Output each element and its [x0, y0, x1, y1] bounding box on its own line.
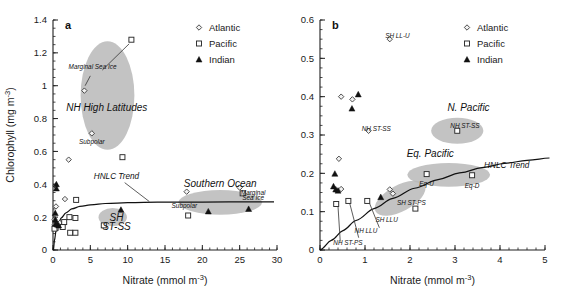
annotation-label: N. Pacific [447, 102, 489, 113]
marker-atlantic [336, 156, 341, 161]
x-tick-label: 5 [88, 254, 93, 265]
marker-atlantic [184, 189, 189, 194]
panel-letter: a [65, 19, 72, 31]
annotation-label: Eq. Pacific [407, 148, 454, 159]
marker-atlantic [66, 157, 71, 162]
marker-atlantic [62, 196, 67, 201]
legend-panel-b: AtlanticPacificIndian [464, 22, 508, 65]
marker-atlantic [464, 25, 469, 30]
marker-pacific [73, 215, 78, 220]
y-tick-label: 0.4 [34, 179, 47, 190]
marker-pacific [129, 37, 134, 42]
annotation-label: Eq-D [465, 182, 480, 190]
annotation-label: NH ST-SS [362, 125, 392, 132]
annotation-label: SH LL-U [385, 32, 410, 39]
x-tick-label: 2 [407, 254, 412, 265]
legend-label-atlantic: Atlantic [477, 22, 508, 33]
y-tick-label: 0.4 [301, 91, 314, 102]
legend-label-atlantic: Atlantic [209, 22, 240, 33]
x-tick-label: 0 [50, 254, 55, 265]
series-atlantic [336, 36, 395, 196]
marker-pacific [365, 198, 370, 203]
y-tick-label: 0.5 [301, 53, 314, 64]
x-axis-title: Nitrate (mmol m-3) [390, 273, 475, 287]
x-tick-label: 3 [452, 254, 457, 265]
marker-indian [196, 57, 202, 63]
marker-pacific [334, 202, 339, 207]
annotation-label: SH LLU [375, 216, 398, 223]
axes-panel-a: 05101520253000.20.40.60.811.21.4 [34, 14, 283, 265]
marker-pacific [197, 41, 202, 46]
leader-hnlc-trend [125, 183, 150, 202]
annotation-label: HNLC Trend [94, 172, 140, 181]
annotation-label: NH High Latitudes [66, 102, 147, 113]
marker-pacific [120, 155, 125, 160]
marker-atlantic [338, 94, 343, 99]
annotation-label: Sea Ice [242, 194, 264, 201]
marker-pacific [74, 197, 79, 202]
marker-pacific [424, 172, 429, 177]
annotation-label: SH ST-PS [397, 199, 427, 206]
annotation-label: NH ST-SS [450, 122, 480, 129]
legend-label-pacific: Pacific [209, 38, 237, 49]
y-tick-label: 1.4 [34, 14, 47, 25]
marker-pacific [465, 41, 470, 46]
leader-nh-st-ps [338, 206, 340, 241]
panel-b: 01234500.10.20.30.40.50.6bNitrate (mmol … [301, 14, 550, 286]
x-axis-title: Nitrate (mmol m-3) [123, 273, 208, 287]
y-axis-title: Chlorophyll (mg m-3) [3, 87, 17, 182]
marker-atlantic [196, 25, 201, 30]
y-tick-label: 0.6 [301, 14, 314, 25]
marker-pacific [67, 215, 72, 220]
axes-panel-b: 01234500.10.20.30.40.50.6 [301, 14, 548, 265]
x-tick-label: 5 [542, 254, 547, 265]
y-tick-label: 0.2 [301, 168, 314, 179]
legend-label-indian: Indian [209, 54, 235, 65]
annotation-label: Eq-U [419, 180, 434, 188]
chart-canvas: 05101520253000.20.40.60.811.21.4aNitrate… [0, 0, 565, 301]
y-tick-label: 0.6 [34, 146, 47, 157]
marker-atlantic [350, 97, 355, 102]
marker-indian [464, 57, 470, 63]
series-indian [331, 91, 384, 199]
marker-atlantic [53, 204, 58, 209]
annotation-label: NH LLU [355, 227, 378, 234]
y-tick-label: 1 [42, 80, 47, 91]
marker-pacific [62, 220, 67, 225]
y-tick-label: 0.1 [301, 206, 314, 217]
x-tick-label: 4 [497, 254, 502, 265]
marker-pacific [186, 213, 191, 218]
annotation-label: NH ST-PS [333, 239, 363, 246]
panel-letter: b [332, 19, 339, 31]
marker-pacific [346, 198, 351, 203]
annotation-label: Subpolar [172, 202, 198, 210]
annotation-label: Subpolar [79, 138, 105, 146]
panel-a: 05101520253000.20.40.60.811.21.4aNitrate… [3, 14, 283, 286]
x-tick-label: 0 [317, 254, 322, 265]
x-tick-label: 15 [160, 254, 171, 265]
marker-pacific [73, 230, 78, 235]
legend-label-pacific: Pacific [477, 38, 505, 49]
y-tick-label: 0 [42, 244, 47, 255]
x-tick-label: 20 [197, 254, 208, 265]
axis-lines [53, 20, 277, 250]
y-tick-label: 0.3 [301, 129, 314, 140]
x-tick-label: 30 [272, 254, 283, 265]
x-tick-label: 25 [234, 254, 245, 265]
y-tick-label: 0 [309, 244, 314, 255]
y-tick-label: 0.2 [34, 212, 47, 223]
legend-label-indian: Indian [477, 54, 503, 65]
annotation-label: Southern Ocean [184, 178, 257, 189]
x-tick-label: 1 [362, 254, 367, 265]
marker-pacific [413, 206, 418, 211]
marker-indian [355, 91, 361, 97]
axis-lines [320, 20, 545, 250]
annotation-label: HNLC Trend [484, 161, 530, 170]
annotation-label: ST-SS [102, 221, 131, 232]
marker-indian [332, 171, 338, 177]
y-tick-label: 1.2 [34, 47, 47, 58]
x-tick-label: 10 [122, 254, 133, 265]
figure-root: 05101520253000.20.40.60.811.21.4aNitrate… [0, 0, 565, 301]
marker-pacific [470, 173, 475, 178]
marker-pacific [68, 230, 73, 235]
